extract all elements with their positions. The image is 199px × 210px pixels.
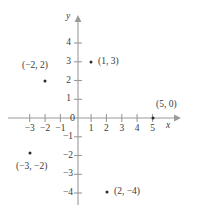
y-tick-label-3: 3 [66,57,71,67]
y-tick-label-4: 4 [66,38,71,48]
point-label-5-0: (5, 0) [156,100,177,110]
point-2-neg4[interactable] [106,191,109,194]
point-1-3[interactable] [90,60,93,63]
y-tick-label-1: 1 [66,95,71,105]
origin-label: 0 [70,113,75,123]
y-tick-label-neg2: −2 [63,151,73,161]
x-tick-label-1: 1 [89,124,94,134]
x-tick-label-5: 5 [150,124,155,134]
point-label-neg3-neg2: (−3, −2) [16,162,47,172]
y-tick-label-neg3: −3 [63,170,73,180]
point-5-0[interactable] [151,117,154,120]
point-label-1-3: (1, 3) [98,57,119,67]
x-tick-label-2: 2 [104,124,109,134]
point-neg3-neg2[interactable] [28,151,31,154]
point-label-2-neg4: (2, −4) [114,187,140,197]
x-tick-label-3: 3 [119,124,124,134]
y-tick-label-neg4: −4 [63,188,73,198]
x-axis [8,114,181,121]
x-tick-label-neg2: −2 [40,124,50,134]
point-label-neg2-2: (−2, 2) [22,61,48,71]
y-axis-label: y [66,12,70,22]
x-tick-label-4: 4 [135,124,140,134]
y-tick-label-2: 2 [66,76,71,86]
x-axis-label: x [166,121,170,131]
y-tick-label-neg1: −1 [63,132,73,142]
x-tick-label-neg3: −3 [25,124,35,134]
point-neg2-2[interactable] [44,79,47,82]
